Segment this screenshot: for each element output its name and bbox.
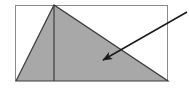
pointer-arrow <box>103 12 187 60</box>
geometry-figure <box>0 0 189 93</box>
figure-container <box>0 0 189 93</box>
shaded-triangle <box>16 5 168 81</box>
